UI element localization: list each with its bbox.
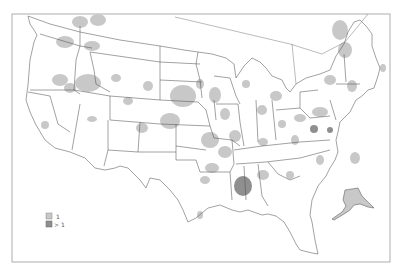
legend-label-level-1: 1 — [56, 213, 60, 220]
map-frame — [12, 14, 390, 262]
us-map: 1 > 1 — [0, 0, 406, 273]
legend-label-level-gt1: > 1 — [54, 221, 65, 228]
legend-swatch-level-1 — [46, 213, 52, 219]
legend-swatch-level-gt1 — [46, 221, 52, 227]
